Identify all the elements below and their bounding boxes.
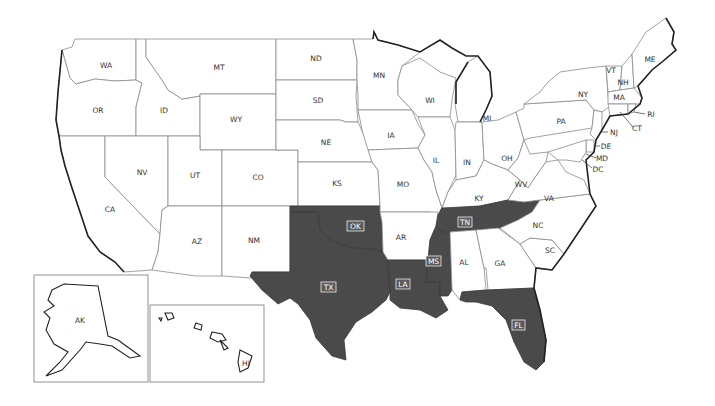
svg-text:MA: MA bbox=[613, 93, 625, 102]
svg-text:AK: AK bbox=[75, 316, 86, 325]
svg-text:MN: MN bbox=[373, 71, 385, 80]
svg-text:FL: FL bbox=[514, 321, 523, 330]
svg-text:LA: LA bbox=[398, 280, 408, 289]
svg-text:HI: HI bbox=[242, 359, 250, 368]
svg-text:MS: MS bbox=[428, 257, 439, 266]
hawaii-inset: HI bbox=[150, 305, 264, 382]
state-az[interactable] bbox=[152, 206, 222, 276]
svg-text:ME: ME bbox=[644, 55, 655, 64]
alaska-inset: AK bbox=[34, 275, 148, 382]
svg-text:AR: AR bbox=[396, 233, 406, 242]
svg-text:ID: ID bbox=[160, 106, 168, 115]
svg-text:ND: ND bbox=[310, 54, 322, 63]
svg-text:IA: IA bbox=[387, 131, 395, 140]
svg-text:NV: NV bbox=[137, 168, 149, 177]
svg-text:RI: RI bbox=[647, 110, 654, 119]
svg-text:NJ: NJ bbox=[610, 128, 618, 137]
svg-text:SC: SC bbox=[545, 246, 555, 255]
svg-text:TN: TN bbox=[459, 218, 470, 227]
svg-text:CT: CT bbox=[632, 124, 642, 133]
svg-text:DE: DE bbox=[601, 142, 612, 151]
svg-text:VT: VT bbox=[606, 66, 616, 75]
state-mi[interactable] bbox=[455, 56, 492, 122]
svg-text:WI: WI bbox=[425, 96, 435, 105]
svg-text:IN: IN bbox=[463, 158, 471, 167]
svg-text:OH: OH bbox=[501, 154, 513, 163]
svg-text:IL: IL bbox=[433, 156, 440, 165]
svg-text:MD: MD bbox=[596, 154, 608, 163]
svg-text:KS: KS bbox=[332, 179, 342, 188]
svg-text:NM: NM bbox=[248, 236, 260, 245]
svg-text:WA: WA bbox=[100, 61, 113, 70]
state-de[interactable] bbox=[586, 140, 594, 152]
svg-text:NC: NC bbox=[533, 221, 544, 230]
svg-text:CO: CO bbox=[252, 173, 263, 182]
svg-text:MO: MO bbox=[397, 180, 409, 189]
svg-text:NE: NE bbox=[321, 138, 332, 147]
svg-text:MT: MT bbox=[213, 63, 224, 72]
us-map: WA OR CA ID NV MT WY UT AZ CO NM ND SD N… bbox=[0, 0, 715, 406]
state-fl[interactable] bbox=[460, 288, 546, 370]
state-me[interactable] bbox=[632, 18, 676, 88]
svg-text:AL: AL bbox=[459, 258, 469, 267]
svg-text:DC: DC bbox=[592, 165, 603, 174]
svg-text:GA: GA bbox=[495, 259, 507, 268]
svg-text:WV: WV bbox=[515, 180, 528, 189]
state-md[interactable] bbox=[548, 140, 586, 162]
svg-text:SD: SD bbox=[313, 96, 324, 105]
svg-text:TX: TX bbox=[323, 283, 334, 292]
svg-text:NH: NH bbox=[617, 78, 628, 87]
svg-text:UT: UT bbox=[190, 171, 200, 180]
svg-text:VA: VA bbox=[544, 194, 555, 203]
svg-text:CA: CA bbox=[105, 205, 116, 214]
svg-text:WY: WY bbox=[230, 115, 242, 124]
svg-text:OK: OK bbox=[350, 222, 362, 231]
svg-text:MI: MI bbox=[483, 114, 492, 123]
state-ia[interactable] bbox=[358, 110, 425, 150]
state-pa[interactable] bbox=[516, 100, 594, 140]
svg-text:PA: PA bbox=[556, 117, 566, 126]
svg-text:NY: NY bbox=[578, 90, 589, 99]
svg-text:AZ: AZ bbox=[192, 237, 202, 246]
svg-text:KY: KY bbox=[474, 194, 484, 203]
svg-text:OR: OR bbox=[92, 106, 103, 115]
